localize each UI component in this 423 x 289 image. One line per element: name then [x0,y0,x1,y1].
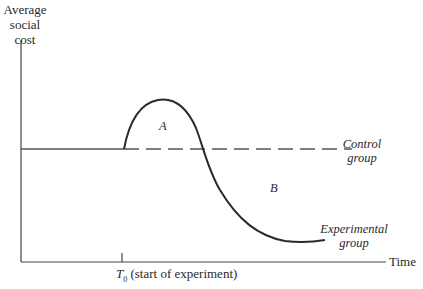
y-axis-label-line2: social [0,17,50,32]
y-axis-label-line3: cost [0,32,50,47]
area-b-label: B [270,181,278,195]
t0-label: T0 (start of experiment) [116,267,237,287]
experimental-curve [124,100,325,243]
experimental-group-label: Experimental group [318,222,390,250]
experimental-group-line1: Experimental [318,222,390,236]
experimental-group-line2: group [318,236,390,250]
area-a-label: A [159,119,167,133]
t0-text: (start of experiment) [127,266,237,281]
control-group-label: Control group [337,137,387,165]
x-axis-label: Time [389,255,416,269]
control-group-line1: Control [337,137,387,151]
y-axis-label-line1: Average [0,2,50,17]
y-axis-label: Average social cost [0,2,50,47]
control-group-line2: group [337,151,387,165]
